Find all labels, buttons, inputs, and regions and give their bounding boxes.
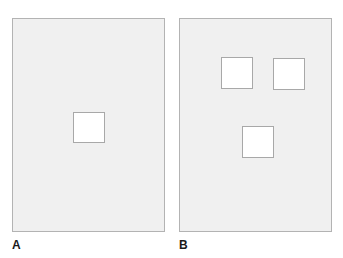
panel-b-bottom-center-square <box>242 126 274 158</box>
panel-a-label: A <box>12 239 21 251</box>
panel-b-top-right-square <box>273 58 305 90</box>
panel-b-label: B <box>179 239 188 251</box>
panel-a-center-square <box>73 112 105 143</box>
panel-b <box>179 18 332 232</box>
panel-b-top-left-square <box>221 57 253 89</box>
figure-root: A B <box>0 0 343 258</box>
panel-a <box>12 18 165 232</box>
